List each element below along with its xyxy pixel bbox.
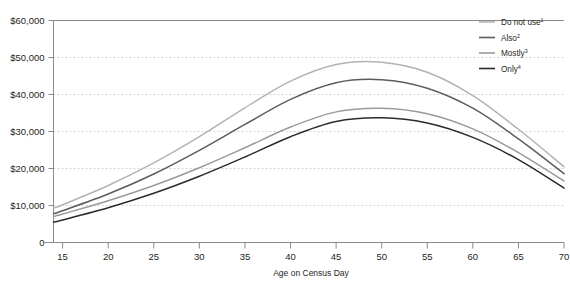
y-axis-tick-label: $30,000 bbox=[10, 126, 44, 137]
legend-label-do-not-use: Do not use1 bbox=[501, 17, 544, 27]
y-axis-tick-label: 0 bbox=[39, 237, 44, 248]
x-axis-tick-label: 45 bbox=[331, 251, 342, 262]
x-axis-tick-label: 15 bbox=[57, 251, 68, 262]
axis-ticks bbox=[49, 21, 565, 249]
x-axis-tick-label: 40 bbox=[285, 251, 296, 262]
x-axis-title: Age on Census Day bbox=[273, 268, 349, 278]
series-line-only bbox=[54, 118, 565, 222]
x-axis-tick-label: 35 bbox=[240, 251, 251, 262]
y-axis-tick-label: $20,000 bbox=[10, 163, 44, 174]
data-series-lines bbox=[54, 62, 565, 223]
y-axis-tick-labels: 0$10,000$20,000$30,000$40,000$50,000$60,… bbox=[10, 15, 44, 248]
earnings-by-age-chart: 0$10,000$20,000$30,000$40,000$50,000$60,… bbox=[0, 0, 570, 289]
y-axis-tick-label: $10,000 bbox=[10, 200, 44, 211]
y-axis-tick-label: $40,000 bbox=[10, 89, 44, 100]
y-axis-tick-label: $50,000 bbox=[10, 52, 44, 63]
gridlines bbox=[54, 21, 565, 206]
y-axis-tick-label: $60,000 bbox=[10, 15, 44, 26]
x-axis-tick-label: 55 bbox=[422, 251, 433, 262]
chart-legend: Do not use1Also2Mostly3Only4 bbox=[479, 17, 544, 74]
x-axis-tick-label: 65 bbox=[513, 251, 524, 262]
legend-label-also: Also2 bbox=[501, 33, 520, 43]
x-axis-tick-label: 20 bbox=[103, 251, 114, 262]
x-axis-tick-label: 60 bbox=[468, 251, 479, 262]
x-axis-tick-label: 25 bbox=[148, 251, 159, 262]
x-axis-tick-label: 30 bbox=[194, 251, 205, 262]
x-axis-tick-labels: 152025303540455055606570 bbox=[57, 251, 569, 262]
series-line-do-not-use bbox=[54, 62, 565, 208]
legend-label-only: Only4 bbox=[501, 64, 521, 74]
legend-label-mostly: Mostly3 bbox=[501, 48, 528, 58]
chart-plot-area: 0$10,000$20,000$30,000$40,000$50,000$60,… bbox=[0, 0, 570, 289]
x-axis-tick-label: 50 bbox=[376, 251, 387, 262]
x-axis-tick-label: 70 bbox=[559, 251, 570, 262]
